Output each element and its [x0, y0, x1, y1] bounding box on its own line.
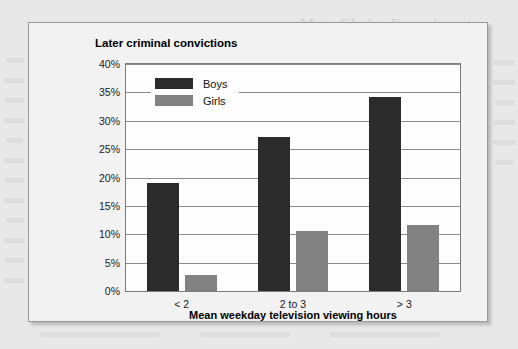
y-axis-tick-label: 15% [99, 200, 120, 212]
y-axis-tick-label: 10% [99, 228, 120, 240]
y-axis-tick-label: 25% [99, 143, 120, 155]
plot-wrapper: 0%5%10%15%20%25%30%35%40%< 22 to 3> 3 Me… [29, 23, 489, 323]
ghost-text-line [4, 278, 24, 283]
bar-girls-0[interactable] [185, 275, 217, 291]
ghost-text-line [40, 332, 160, 337]
ghost-text-line [4, 198, 24, 203]
y-axis-tick-label: 30% [99, 115, 120, 127]
ghost-text-line [4, 158, 24, 163]
legend-label-boys: Boys [203, 78, 227, 90]
bar-fill [258, 137, 290, 291]
ghost-text-line [6, 58, 24, 63]
legend-label-girls: Girls [203, 95, 226, 107]
ghost-text-line [4, 118, 25, 123]
y-axis-tick-label: 5% [105, 257, 120, 269]
legend-swatch-boys [155, 78, 193, 89]
ghost-text-line [5, 178, 24, 183]
y-axis-tick-label: 20% [99, 172, 120, 184]
chart-legend: Boys Girls [151, 71, 239, 114]
ghost-text-line [6, 218, 24, 223]
y-axis-tick-label: 35% [99, 86, 120, 98]
bar-fill [369, 97, 401, 291]
legend-item-boys: Boys [155, 75, 227, 92]
bar-fill [407, 225, 439, 291]
bar-boys-1[interactable] [258, 137, 290, 291]
bar-girls-1[interactable] [296, 231, 328, 291]
bar-group: > 3 [349, 64, 460, 291]
chart-figure-box: Later criminal convictions 0%5%10%15%20%… [28, 22, 488, 322]
ghost-text-line [6, 138, 23, 143]
bar-group: 2 to 3 [237, 64, 348, 291]
ghost-text-line [5, 258, 24, 263]
y-axis-tick-label: 0% [105, 285, 120, 297]
bar-fill [296, 231, 328, 291]
ghost-text-line [4, 238, 25, 243]
ghost-text-line [494, 120, 515, 125]
ghost-text-line [330, 332, 440, 337]
legend-item-girls: Girls [155, 92, 227, 109]
ghost-text-line [493, 140, 515, 145]
bar-boys-2[interactable] [369, 97, 401, 291]
ghost-text-line [200, 332, 290, 337]
ghost-text-line [495, 100, 514, 105]
ghost-text-line [495, 160, 514, 165]
x-axis-title: Mean weekday television viewing hours [125, 309, 461, 321]
bar-boys-0[interactable] [147, 183, 179, 291]
ghost-text-line [494, 60, 514, 65]
ghost-text-line [5, 98, 24, 103]
ghost-text-line [4, 78, 24, 83]
bar-fill [147, 183, 179, 291]
bar-girls-2[interactable] [407, 225, 439, 291]
bar-fill [185, 275, 217, 291]
legend-swatch-girls [155, 95, 193, 106]
y-axis-tick-label: 40% [99, 58, 120, 70]
ghost-text-line [493, 80, 515, 85]
